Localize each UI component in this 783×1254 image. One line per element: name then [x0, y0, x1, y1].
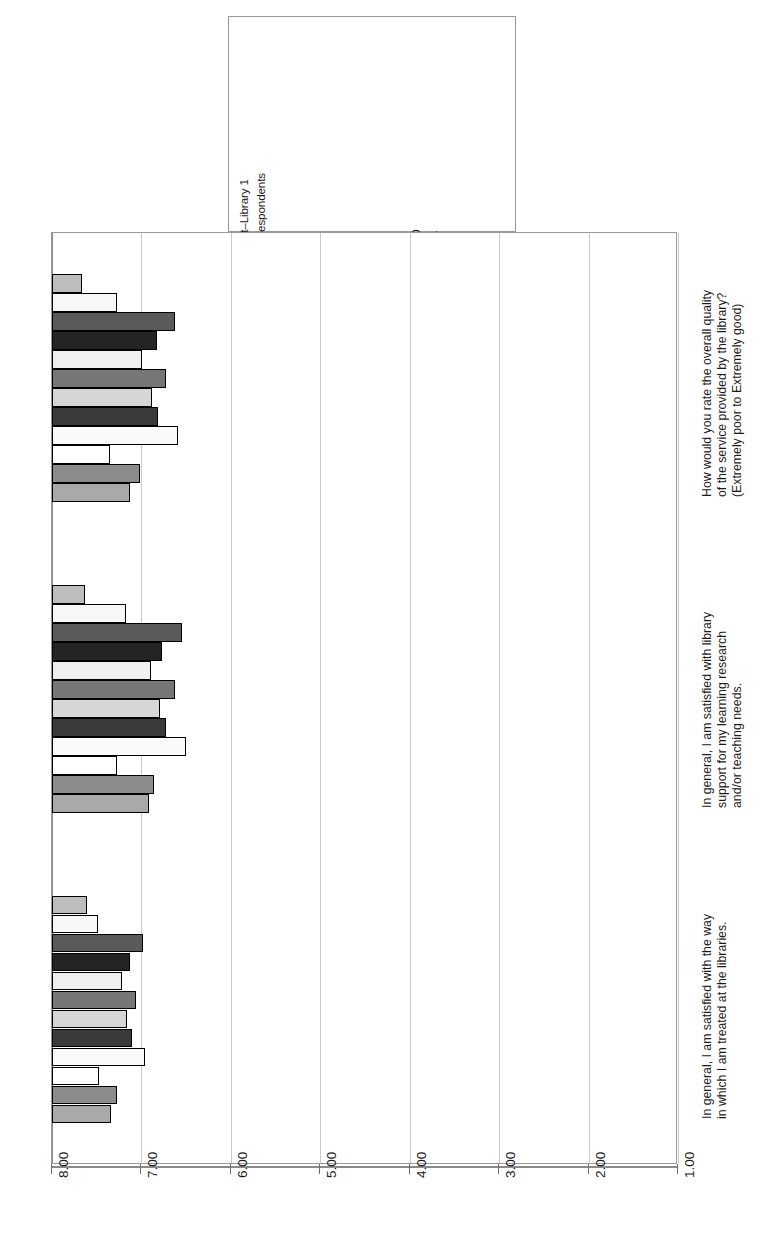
- bar: [52, 680, 175, 699]
- bar: [52, 1048, 145, 1067]
- chart-legend: Vanderbilt–Library 1ARL–All respondentsL…: [228, 16, 516, 232]
- bar: [52, 756, 117, 775]
- bar: [52, 934, 143, 953]
- bar: [52, 312, 175, 331]
- category-label-line: (Extremely poor to Extremely good): [730, 290, 745, 497]
- bar: [52, 1067, 99, 1086]
- category-label-line: support for my learning research: [715, 612, 730, 808]
- category-label-line: of the service provided by the library?: [715, 290, 730, 497]
- axis-tick-label: 1.00: [682, 1152, 697, 1178]
- bar: [52, 293, 117, 312]
- axis-tick-label: 5.00: [324, 1152, 339, 1178]
- axis-tick: [319, 1164, 320, 1174]
- axis-tick: [409, 1164, 410, 1174]
- bar: [52, 1086, 117, 1105]
- axis-tick: [498, 1164, 499, 1174]
- category-label: How would you rate the overall qualityof…: [700, 290, 745, 497]
- axis-tick: [140, 1164, 141, 1174]
- bar: [52, 483, 130, 502]
- bar: [52, 585, 85, 604]
- bar: [52, 1105, 111, 1124]
- value-axis: 8.007.006.005.004.003.002.001.00: [0, 1164, 783, 1254]
- axis-tick: [588, 1164, 589, 1174]
- bar: [52, 369, 166, 388]
- bar: [52, 896, 87, 915]
- category-label-line: How would you rate the overall quality: [700, 290, 715, 497]
- axis-tick-label: 4.00: [414, 1152, 429, 1178]
- bar: [52, 915, 98, 934]
- bar: [52, 991, 136, 1010]
- axis-tick-label: 2.00: [593, 1152, 608, 1178]
- bar: [52, 274, 82, 293]
- bar: [52, 464, 140, 483]
- category-label-line: in which I am treated at the libraries.: [715, 914, 730, 1119]
- gridline: [678, 233, 679, 1163]
- bars-layer: [52, 233, 676, 1163]
- bar: [52, 388, 152, 407]
- bar: [52, 407, 158, 426]
- bar: [52, 445, 110, 464]
- bar: [52, 775, 154, 794]
- axis-tick-label: 8.00: [56, 1152, 71, 1178]
- chart-page: Vanderbilt–Library 1ARL–All respondentsL…: [0, 0, 783, 1254]
- axis-tick: [677, 1164, 678, 1174]
- category-label: In general, I am satisfied with librarys…: [700, 612, 745, 808]
- bar: [52, 1029, 132, 1048]
- bar: [52, 661, 151, 680]
- bar: [52, 426, 178, 445]
- bar: [52, 623, 182, 642]
- axis-tick: [51, 1164, 52, 1174]
- category-label: In general, I am satisfied with the wayi…: [700, 914, 730, 1119]
- bar: [52, 331, 157, 350]
- bar: [52, 1010, 127, 1029]
- category-label-line: and/or teaching needs.: [730, 612, 745, 808]
- category-label-line: In general, I am satisfied with library: [700, 612, 715, 808]
- bar: [52, 794, 149, 813]
- bar: [52, 953, 130, 972]
- bar: [52, 737, 186, 756]
- axis-tick-label: 7.00: [145, 1152, 160, 1178]
- bar: [52, 718, 166, 737]
- axis-tick-label: 3.00: [503, 1152, 518, 1178]
- axis-tick-label: 6.00: [235, 1152, 250, 1178]
- bar: [52, 604, 126, 623]
- axis-tick: [230, 1164, 231, 1174]
- category-label-line: In general, I am satisfied with the way: [700, 914, 715, 1119]
- bar: [52, 642, 162, 661]
- bar: [52, 972, 122, 991]
- plot-area: [51, 232, 677, 1164]
- bar: [52, 350, 142, 369]
- bar: [52, 699, 160, 718]
